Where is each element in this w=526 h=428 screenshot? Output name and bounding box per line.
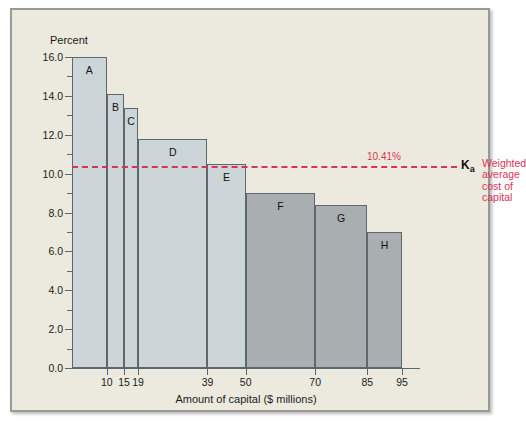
y-tick — [65, 251, 72, 252]
wacc-symbol-label: Ka — [461, 158, 475, 174]
wacc-value-label: 10.41% — [367, 151, 401, 162]
chart-figure: Percent 0.02.04.06.08.010.012.014.016.0 … — [10, 8, 490, 412]
bar-b: B — [107, 94, 124, 368]
y-tick-label: 6.0 — [48, 245, 63, 257]
x-tick-label: 85 — [361, 376, 373, 388]
bar-g: G — [315, 205, 367, 368]
y-tick-label: 4.0 — [48, 284, 63, 296]
y-tick-label: 12.0 — [43, 129, 63, 141]
y-axis-title: Percent — [50, 34, 88, 46]
x-tick-label: 70 — [309, 376, 321, 388]
x-tick — [246, 368, 247, 375]
bar-label: G — [337, 212, 345, 224]
x-tick-label: 39 — [202, 376, 214, 388]
y-tick-label: 0.0 — [48, 362, 63, 374]
bar-c: C — [124, 108, 138, 368]
bar-label: E — [223, 171, 230, 183]
wacc-legend-text: Weighted average cost of capital — [482, 158, 526, 204]
x-tick — [367, 368, 368, 375]
y-tick — [65, 290, 72, 291]
y-tick — [65, 174, 72, 175]
x-tick-label: 15 — [118, 376, 130, 388]
x-tick — [315, 368, 316, 375]
x-axis-title: Amount of capital ($ millions) — [72, 393, 420, 405]
x-tick — [207, 368, 208, 375]
x-tick-label: 50 — [240, 376, 252, 388]
x-tick — [107, 368, 108, 375]
wacc-dashed-line — [72, 166, 457, 168]
bar-label: D — [169, 146, 177, 158]
bar-label: C — [127, 115, 135, 127]
bar-label: B — [112, 101, 119, 113]
x-tick-label: 10 — [101, 376, 113, 388]
bar-label: H — [381, 239, 389, 251]
y-tick-label: 14.0 — [43, 90, 63, 102]
bar-label: A — [86, 64, 93, 76]
x-tick — [402, 368, 403, 375]
bar-label: F — [277, 200, 283, 212]
y-tick — [65, 213, 72, 214]
x-tick-label: 19 — [132, 376, 144, 388]
y-tick — [65, 135, 72, 136]
x-tick — [138, 368, 139, 375]
bar-a: A — [72, 57, 107, 368]
y-tick — [65, 96, 72, 97]
bar-d: D — [138, 139, 207, 368]
y-tick — [65, 368, 72, 369]
plot-area: 0.02.04.06.08.010.012.014.016.0 10151939… — [72, 57, 402, 368]
x-tick-label: 95 — [396, 376, 408, 388]
y-tick-label: 8.0 — [48, 207, 63, 219]
y-tick — [65, 57, 72, 58]
wacc-symbol-subscript: a — [470, 164, 475, 174]
y-tick-label: 2.0 — [48, 323, 63, 335]
y-tick-label: 10.0 — [43, 168, 63, 180]
y-tick-label: 16.0 — [43, 51, 63, 63]
bar-h: H — [367, 232, 402, 368]
bar-f: F — [246, 193, 315, 368]
x-tick — [124, 368, 125, 375]
bar-e: E — [207, 164, 245, 368]
y-tick — [65, 329, 72, 330]
